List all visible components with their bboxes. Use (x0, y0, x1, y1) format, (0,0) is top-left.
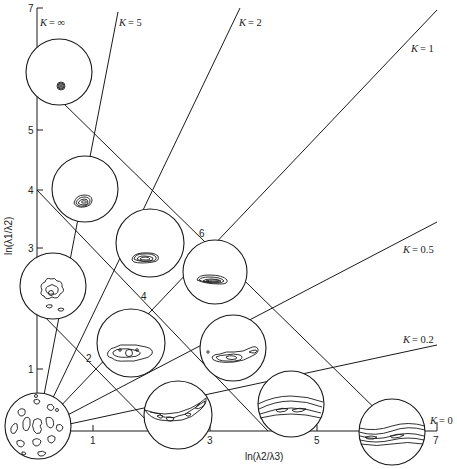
stereonet-k2-c4 (116, 209, 184, 277)
fabric-diagram: 7 5 4 3 1 1 3 5 7 ln(λ2/λ3) ln(λ1/λ2) K=… (0, 0, 457, 469)
y-tick-label-1: 1 (28, 364, 34, 375)
x-tick-label-7: 7 (433, 435, 439, 446)
stereonet-random (5, 393, 71, 459)
stereonet-weak-cluster (20, 253, 86, 319)
k-label-0.2: K= 0.2 (402, 334, 434, 345)
k-label-0.5: K= 0.5 (402, 244, 434, 255)
y-tick-label-7: 7 (28, 3, 34, 14)
k-label-2: K= 2 (238, 17, 262, 28)
c-label-6: 6 (199, 228, 205, 239)
k-label-0: K= 0 (429, 415, 453, 426)
y-tick-label-4: 4 (28, 185, 34, 196)
stereonet-girdle-mid (258, 371, 324, 437)
stereonet-k2-weak (97, 309, 165, 377)
k-label-inf: K= ∞ (39, 17, 65, 28)
x-tick-label-5: 5 (314, 435, 320, 446)
stereonets (5, 39, 425, 465)
stereonet-girdle-strong (359, 399, 425, 465)
stereonet-girdle-weak (144, 381, 212, 449)
stereonet-k05 (200, 315, 266, 381)
y-tick-label-5: 5 (28, 125, 34, 136)
stereonet-cluster-mid (52, 156, 118, 222)
stereonet-cluster-top (26, 39, 92, 105)
y-axis-label: ln(λ1/λ2) (3, 217, 14, 255)
y-tick-label-3: 3 (28, 243, 34, 254)
c-label-4: 4 (141, 291, 147, 302)
c-label-2: 2 (86, 353, 92, 364)
x-axis-label: ln(λ2/λ3) (245, 451, 283, 462)
k-label-5: K= 5 (118, 17, 142, 28)
x-tick-label-3: 3 (207, 435, 213, 446)
k-label-1: K= 1 (410, 43, 434, 54)
x-tick-label-1: 1 (90, 435, 96, 446)
stereonet-k1-c6 (183, 240, 247, 304)
